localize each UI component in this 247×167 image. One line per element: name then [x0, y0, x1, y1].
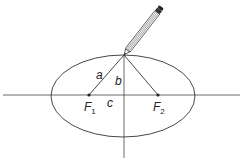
label-f2: F2: [153, 100, 165, 116]
ellipse: [51, 55, 195, 137]
focus-f1: [87, 93, 90, 96]
label-f1: F1: [84, 100, 96, 116]
pencil-icon: [122, 5, 164, 57]
ellipse-diagram: a b c F1 F2: [0, 0, 247, 167]
focus-f2: [156, 93, 159, 96]
label-b: b: [115, 74, 122, 88]
label-c: c: [107, 96, 113, 110]
label-a: a: [96, 68, 103, 82]
line-to-f2: [124, 55, 158, 95]
